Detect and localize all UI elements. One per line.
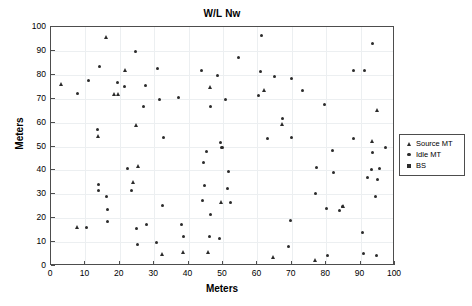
y-tick-mark bbox=[51, 217, 55, 218]
data-point-dot bbox=[370, 168, 373, 171]
x-tick-label: 20 bbox=[104, 268, 134, 278]
legend-item-source-mt[interactable]: Source MT bbox=[404, 138, 460, 149]
data-point-dot bbox=[202, 161, 205, 164]
gridline-vertical bbox=[120, 27, 121, 264]
data-point-dot bbox=[126, 167, 129, 170]
data-point-dot bbox=[224, 98, 227, 101]
data-point-dot bbox=[371, 42, 374, 45]
data-point-dot bbox=[76, 92, 79, 95]
data-point-dot bbox=[145, 223, 148, 226]
data-point-dot bbox=[205, 150, 208, 153]
data-point-triangle bbox=[313, 258, 317, 262]
data-point-dot bbox=[98, 65, 101, 68]
data-point-dot bbox=[161, 204, 164, 207]
data-point-triangle bbox=[59, 82, 63, 86]
gridline-horizontal bbox=[51, 194, 393, 195]
y-tick-label: 30 bbox=[20, 188, 46, 198]
gridline-vertical bbox=[257, 27, 258, 264]
legend-item-bs[interactable]: BS bbox=[404, 160, 460, 171]
data-point-dot bbox=[106, 220, 109, 223]
x-tick-mark bbox=[153, 261, 154, 265]
data-point-dot bbox=[177, 96, 180, 99]
data-point-dot bbox=[116, 81, 119, 84]
data-point-dot bbox=[259, 70, 262, 73]
gridline-horizontal bbox=[51, 75, 393, 76]
x-tick-mark bbox=[360, 261, 361, 265]
gridline-horizontal bbox=[51, 123, 393, 124]
data-point-dot bbox=[326, 254, 329, 257]
data-point-dot bbox=[289, 219, 292, 222]
x-tick-mark bbox=[188, 261, 189, 265]
data-point-triangle bbox=[370, 139, 374, 143]
legend-item-label: Idle MT bbox=[414, 150, 441, 159]
data-point-dot bbox=[208, 235, 211, 238]
data-point-triangle bbox=[208, 85, 212, 89]
triangle-marker-icon bbox=[404, 142, 414, 146]
gridline-vertical bbox=[189, 27, 190, 264]
data-point-triangle bbox=[271, 255, 275, 259]
legend-item-idle-mt[interactable]: Idle MT bbox=[404, 149, 460, 160]
data-point-dot bbox=[257, 94, 260, 97]
data-point-dot bbox=[130, 189, 133, 192]
y-axis-title: Meters bbox=[14, 94, 25, 174]
x-tick-mark bbox=[84, 261, 85, 265]
x-tick-mark bbox=[394, 261, 395, 265]
data-point-dot bbox=[290, 77, 293, 80]
data-point-dot bbox=[341, 205, 344, 208]
legend-item-label: Source MT bbox=[414, 139, 453, 148]
data-point-dot bbox=[363, 69, 366, 72]
data-point-dot bbox=[105, 195, 108, 198]
data-point-dot bbox=[200, 69, 203, 72]
data-point-dot bbox=[352, 137, 355, 140]
gridline-horizontal bbox=[51, 51, 393, 52]
data-point-dot bbox=[142, 105, 145, 108]
data-point-dot bbox=[182, 235, 185, 238]
data-point-dot bbox=[209, 105, 212, 108]
x-tick-label: 80 bbox=[310, 268, 340, 278]
data-point-dot bbox=[162, 136, 165, 139]
data-point-dot bbox=[378, 167, 381, 170]
x-tick-label: 100 bbox=[379, 268, 409, 278]
x-tick-mark bbox=[291, 261, 292, 265]
data-point-dot bbox=[376, 178, 379, 181]
data-point-dot bbox=[273, 75, 276, 78]
data-point-dot bbox=[219, 141, 222, 144]
data-point-dot bbox=[96, 128, 99, 131]
data-point-triangle bbox=[134, 123, 138, 127]
data-point-triangle bbox=[206, 250, 210, 254]
x-tick-label: 50 bbox=[207, 268, 237, 278]
y-tick-mark bbox=[51, 122, 55, 123]
data-point-dot bbox=[290, 136, 293, 139]
data-point-dot bbox=[226, 187, 229, 190]
data-point-dot bbox=[85, 226, 88, 229]
x-axis-title: Meters bbox=[50, 283, 394, 294]
data-point-dot bbox=[384, 146, 387, 149]
y-tick-label: 10 bbox=[20, 236, 46, 246]
y-tick-label: 100 bbox=[20, 21, 46, 31]
y-tick-mark bbox=[51, 146, 55, 147]
x-tick-label: 70 bbox=[276, 268, 306, 278]
data-point-dot bbox=[314, 192, 317, 195]
gridline-vertical bbox=[292, 27, 293, 264]
data-point-dot bbox=[375, 254, 378, 257]
y-tick-mark bbox=[51, 265, 55, 266]
y-tick-mark bbox=[51, 98, 55, 99]
data-point-dot bbox=[218, 237, 221, 240]
data-point-dot bbox=[155, 241, 158, 244]
data-point-dot bbox=[371, 151, 374, 154]
data-point-triangle bbox=[219, 200, 223, 204]
data-point-dot bbox=[136, 243, 139, 246]
data-point-dot bbox=[237, 56, 240, 59]
data-point-dot bbox=[158, 98, 161, 101]
y-tick-mark bbox=[51, 26, 55, 27]
x-tick-mark bbox=[222, 261, 223, 265]
data-point-dot bbox=[144, 84, 147, 87]
x-tick-label: 30 bbox=[138, 268, 168, 278]
data-point-dot bbox=[301, 89, 304, 92]
data-point-triangle bbox=[136, 164, 140, 168]
data-point-dot bbox=[352, 69, 355, 72]
x-tick-label: 40 bbox=[173, 268, 203, 278]
data-point-dot bbox=[203, 184, 206, 187]
gridline-horizontal bbox=[51, 99, 393, 100]
data-point-dot bbox=[123, 85, 126, 88]
